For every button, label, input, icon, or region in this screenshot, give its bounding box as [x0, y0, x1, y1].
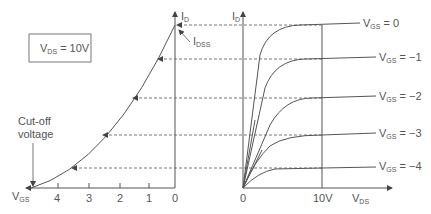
vds-condition-label: VDS = 10V: [40, 42, 90, 55]
tick-1: 1: [146, 192, 152, 204]
idss-pointer: [179, 30, 190, 42]
right-10v-label: 10V: [313, 192, 333, 204]
left-vgs-axis-label: VGS: [12, 190, 30, 203]
cutoff-label-line2: voltage: [18, 128, 53, 140]
tick-2: 2: [117, 192, 123, 204]
right-vds-axis-label: VDS: [352, 192, 369, 205]
curve-label-vgs-3: VGS = −3: [379, 127, 422, 140]
left-axis-ticks: [58, 183, 149, 188]
right-origin-label: 0: [240, 192, 246, 204]
output-curves: [243, 23, 376, 188]
curve-label-vgs-4: VGS = −4: [379, 160, 422, 173]
tick-0: 0: [172, 192, 178, 204]
curve-label-vgs-1: VGS = −1: [379, 51, 422, 64]
jfet-transfer-characteristics-diagram: VDS = 10V ID 4 3 2 1 0 VGS IDSS Cut-off …: [0, 0, 431, 214]
left-id-axis-label: ID: [181, 10, 189, 23]
tick-3: 3: [86, 192, 92, 204]
right-id-axis-label: ID: [232, 10, 240, 23]
tick-4: 4: [54, 192, 60, 204]
curve-label-vgs-2: VGS = −2: [379, 90, 422, 103]
curve-label-vgs-0: VGS = 0: [363, 17, 399, 30]
idss-label: IDSS: [193, 35, 211, 48]
cutoff-label-line1: Cut-off: [18, 115, 52, 127]
